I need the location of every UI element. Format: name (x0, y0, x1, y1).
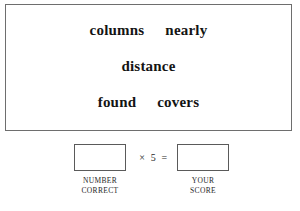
word-item: distance (121, 59, 175, 74)
number-correct-group: NUMBER CORRECT (74, 144, 126, 195)
word-item: nearly (165, 23, 207, 38)
your-score-label: YOUR SCORE (190, 176, 216, 195)
word-row: found covers (6, 95, 291, 110)
word-rows: columns nearly distance found covers (6, 5, 291, 130)
multiply-equals-operator: × 5 = (132, 152, 176, 164)
word-row: distance (6, 59, 291, 74)
number-correct-label: NUMBER CORRECT (81, 176, 118, 195)
score-calculation-strip: NUMBER CORRECT × 5 = YOUR SCORE (0, 144, 300, 211)
word-list-panel: columns nearly distance found covers (5, 4, 292, 131)
your-score-input[interactable] (177, 144, 229, 171)
number-correct-label-line-1: NUMBER (81, 176, 118, 186)
word-item: found (98, 95, 137, 110)
number-correct-input[interactable] (74, 144, 126, 171)
number-correct-label-line-2: CORRECT (81, 186, 118, 196)
your-score-group: YOUR SCORE (177, 144, 229, 195)
word-item: columns (90, 23, 145, 38)
worksheet-page: columns nearly distance found covers NUM… (0, 0, 300, 211)
word-item: covers (157, 95, 199, 110)
your-score-label-line-2: SCORE (190, 186, 216, 196)
word-row: columns nearly (6, 23, 291, 38)
your-score-label-line-1: YOUR (190, 176, 216, 186)
